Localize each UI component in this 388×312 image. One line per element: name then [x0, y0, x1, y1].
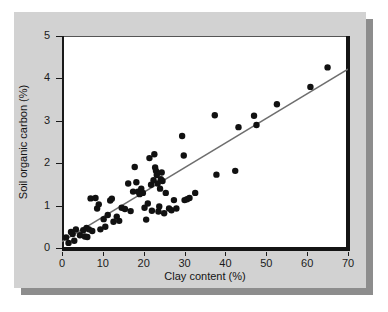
- x-axis-tick: [348, 252, 349, 256]
- y-axis-tick-label: 5: [32, 30, 50, 41]
- data-point: [274, 101, 280, 107]
- data-point: [151, 151, 157, 157]
- data-point: [173, 205, 179, 211]
- data-point: [192, 190, 198, 196]
- data-point: [89, 228, 95, 234]
- data-point: [251, 113, 257, 119]
- data-point: [181, 152, 187, 158]
- scatter-plot-canvas: [62, 36, 348, 248]
- data-point: [157, 185, 163, 191]
- data-point: [159, 178, 165, 184]
- data-point: [109, 196, 115, 202]
- y-axis-tick-label: 0: [32, 242, 50, 253]
- data-point: [235, 124, 241, 130]
- data-point: [122, 206, 128, 212]
- y-axis-tick: [56, 36, 62, 37]
- y-axis-tick: [56, 163, 62, 164]
- x-axis-tick: [62, 252, 63, 256]
- data-point: [149, 207, 155, 213]
- data-point: [163, 190, 169, 196]
- data-point: [158, 169, 164, 175]
- data-points-layer: [63, 64, 331, 246]
- data-point: [127, 208, 133, 214]
- data-point: [186, 195, 192, 201]
- x-axis-tick: [225, 252, 226, 256]
- x-axis-tick: [266, 252, 267, 256]
- data-point: [132, 164, 138, 170]
- data-point: [253, 122, 259, 128]
- data-point: [232, 168, 238, 174]
- data-point: [96, 201, 102, 207]
- x-axis-label: Clay content (%): [62, 270, 348, 282]
- data-point: [63, 234, 69, 240]
- x-axis-tick-label: 60: [296, 258, 318, 269]
- data-point: [140, 190, 146, 196]
- y-axis-tick: [56, 121, 62, 122]
- data-point: [92, 195, 98, 201]
- data-point: [133, 179, 139, 185]
- figure-root: 012345010203040506070 Clay content (%) S…: [0, 0, 388, 312]
- panel-drop-shadow-right: [366, 19, 373, 295]
- data-point: [116, 218, 122, 224]
- data-point: [161, 210, 167, 216]
- x-axis-tick-label: 50: [255, 258, 277, 269]
- x-axis-tick: [185, 252, 186, 256]
- y-axis-tick: [56, 248, 62, 249]
- y-axis-tick: [56, 78, 62, 79]
- data-point: [125, 180, 131, 186]
- x-axis-tick-label: 40: [214, 258, 236, 269]
- x-axis-tick: [103, 252, 104, 256]
- x-axis-tick-label: 30: [174, 258, 196, 269]
- x-axis-tick-label: 20: [133, 258, 155, 269]
- data-point: [84, 234, 90, 240]
- x-axis-tick-label: 70: [337, 258, 359, 269]
- y-axis-label: Soil organic carbon (%): [17, 67, 29, 217]
- data-point: [179, 133, 185, 139]
- data-point: [102, 224, 108, 230]
- y-axis-tick-label: 1: [32, 200, 50, 211]
- y-axis-tick-label: 4: [32, 72, 50, 83]
- x-axis-tick: [144, 252, 145, 256]
- y-axis-tick-label: 2: [32, 157, 50, 168]
- data-point: [324, 64, 330, 70]
- data-point: [143, 216, 149, 222]
- data-point: [213, 171, 219, 177]
- y-axis-tick: [56, 206, 62, 207]
- data-point: [307, 84, 313, 90]
- x-axis-tick-label: 10: [92, 258, 114, 269]
- y-axis-tick-label: 3: [32, 115, 50, 126]
- data-point: [156, 203, 162, 209]
- data-point: [71, 238, 77, 244]
- data-point: [105, 212, 111, 218]
- panel-drop-shadow-bottom: [21, 288, 373, 295]
- x-axis-tick: [307, 252, 308, 256]
- x-axis-tick-label: 0: [51, 258, 73, 269]
- data-point: [65, 240, 71, 246]
- data-point: [145, 200, 151, 206]
- data-point: [73, 226, 79, 232]
- data-point: [212, 112, 218, 118]
- data-point: [171, 197, 177, 203]
